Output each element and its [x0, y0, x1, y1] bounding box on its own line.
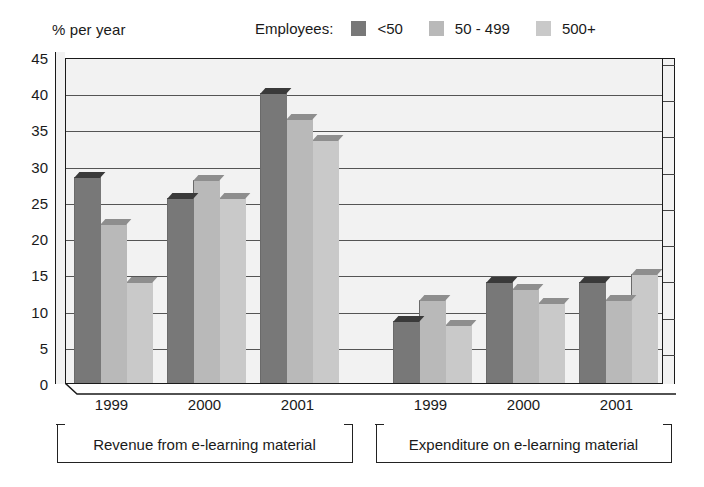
- bar-top-face: [219, 193, 250, 199]
- bar-front-face: [538, 303, 565, 383]
- y-axis-tick-label: 0: [6, 376, 48, 393]
- depth-gridline: [663, 137, 675, 138]
- x-axis-labels: 199920002001199920002001: [0, 396, 704, 418]
- bar-front-face: [126, 282, 153, 383]
- depth-gridline: [663, 65, 675, 66]
- bar-top-face: [579, 277, 610, 283]
- gridline: [66, 168, 662, 169]
- bar-front-face: [579, 282, 606, 383]
- bar-front-face: [100, 224, 127, 383]
- bar-top-face: [193, 175, 224, 181]
- bar: [538, 303, 564, 383]
- bar-top-face: [126, 277, 157, 283]
- bar-front-face: [445, 325, 472, 383]
- plot-area: [65, 58, 663, 384]
- bar: [74, 177, 100, 383]
- legend-title: Employees:: [255, 20, 333, 37]
- legend-item-50-499: 50 - 499: [429, 20, 510, 37]
- depth-gridline: [663, 355, 675, 356]
- plot-base-edge: [65, 383, 676, 395]
- legend-label-500-plus: 500+: [562, 20, 596, 37]
- bracket-cap-right: [344, 424, 353, 425]
- x-axis-tick-label: 2001: [281, 396, 314, 413]
- bar-top-face: [74, 172, 105, 178]
- bar-front-face: [286, 119, 313, 383]
- gridline: [66, 240, 662, 241]
- bracket-cap-left: [375, 424, 384, 425]
- x-axis-tick-label: 1999: [414, 396, 447, 413]
- depth-gridline: [663, 246, 675, 247]
- bar-top-face: [100, 219, 131, 225]
- x-axis-tick-label: 2001: [600, 396, 633, 413]
- bar: [486, 282, 512, 383]
- bar: [167, 198, 193, 383]
- bar-chart: % per year Employees: <50 50 - 499 500+ …: [0, 0, 704, 487]
- gridline: [66, 204, 662, 205]
- y-axis-tick-label: 5: [6, 339, 48, 356]
- plot-right-depth-face: [663, 58, 675, 384]
- x-axis-tick-label: 2000: [507, 396, 540, 413]
- bar-front-face: [219, 198, 246, 383]
- x-axis-tick-label: 2000: [188, 396, 221, 413]
- depth-gridline: [663, 319, 675, 320]
- plot-left-face: [55, 52, 65, 384]
- gridline: [66, 131, 662, 132]
- bar-top-face: [286, 114, 317, 120]
- bracket-cap-left: [56, 424, 65, 425]
- bar-top-face: [538, 298, 569, 304]
- group-label-box-revenue: Revenue from e-learning material: [57, 425, 353, 463]
- legend-swatch-icon-500-plus: [536, 21, 551, 36]
- bar-front-face: [512, 289, 539, 383]
- bar: [312, 140, 338, 383]
- bar-top-face: [605, 295, 636, 301]
- bar: [445, 325, 471, 383]
- y-axis-tick-label: 20: [6, 231, 48, 248]
- depth-gridline: [663, 282, 675, 283]
- y-axis-tick-label: 10: [6, 303, 48, 320]
- bar: [419, 300, 445, 383]
- bar-top-face: [419, 295, 450, 301]
- bar-front-face: [74, 177, 101, 383]
- gridline: [66, 313, 662, 314]
- y-axis-tick-label: 30: [6, 158, 48, 175]
- bar: [512, 289, 538, 383]
- group-label-box-expenditure: Expenditure on e-learning material: [376, 425, 672, 463]
- bar-top-face: [631, 269, 662, 275]
- legend-item-500-plus: 500+: [536, 20, 596, 37]
- bar-top-face: [167, 193, 198, 199]
- bar: [631, 274, 657, 383]
- y-axis-tick-label: 45: [6, 50, 48, 67]
- bar: [193, 180, 219, 383]
- bar: [126, 282, 152, 383]
- y-axis-tick-labels: 051015202530354045: [0, 52, 48, 392]
- legend-swatch-icon-under-50: [351, 21, 366, 36]
- bar-top-face: [260, 88, 291, 94]
- depth-gridline: [663, 101, 675, 102]
- gridline: [66, 95, 662, 96]
- bar-front-face: [167, 198, 194, 383]
- bar-top-face: [312, 135, 343, 141]
- x-axis-tick-label: 1999: [95, 396, 128, 413]
- bar-front-face: [486, 282, 513, 383]
- bar-front-face: [393, 321, 420, 383]
- group-label-revenue: Revenue from e-learning material: [58, 435, 352, 452]
- bar: [579, 282, 605, 383]
- chart-legend: Employees: <50 50 - 499 500+: [255, 20, 596, 37]
- legend-item-under-50: <50: [351, 20, 402, 37]
- bar-top-face: [445, 320, 476, 326]
- y-axis-tick-label: 35: [6, 122, 48, 139]
- bar: [219, 198, 245, 383]
- bar: [100, 224, 126, 383]
- legend-label-50-499: 50 - 499: [455, 20, 510, 37]
- depth-gridline: [663, 210, 675, 211]
- bar-front-face: [312, 140, 339, 383]
- y-axis-unit-label: % per year: [52, 21, 126, 38]
- group-label-expenditure: Expenditure on e-learning material: [377, 435, 671, 452]
- bar: [605, 300, 631, 383]
- legend-swatch-icon-50-499: [429, 21, 444, 36]
- depth-gridline: [663, 174, 675, 175]
- bar-front-face: [605, 300, 632, 383]
- bar: [260, 93, 286, 383]
- legend-label-under-50: <50: [377, 20, 402, 37]
- y-axis-tick-label: 25: [6, 194, 48, 211]
